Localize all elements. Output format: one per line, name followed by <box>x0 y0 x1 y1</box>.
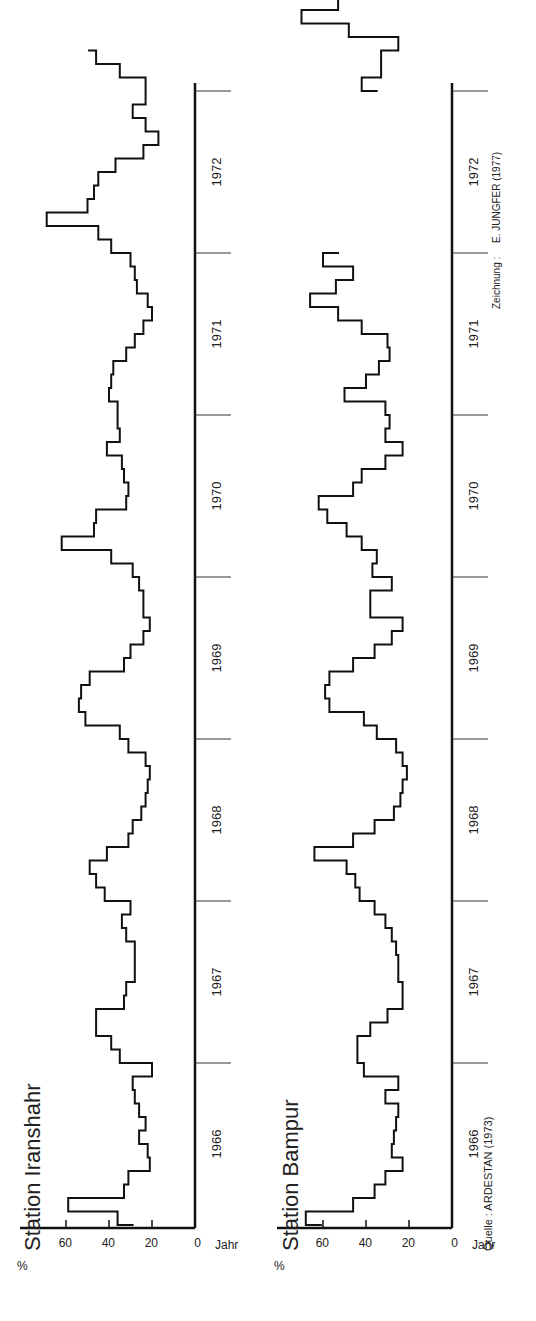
year-label: 1968 <box>466 806 481 835</box>
year-label: 1970 <box>466 482 481 511</box>
y-tick-label: 40 <box>102 1236 116 1250</box>
y-tick-label: 20 <box>402 1236 416 1250</box>
y-tick-label: 40 <box>359 1236 373 1250</box>
y-tick-label: 60 <box>59 1236 73 1250</box>
year-label: 1969 <box>466 644 481 673</box>
year-label: 1968 <box>209 806 224 835</box>
y-axis-unit: % <box>274 1259 285 1273</box>
year-label: 1967 <box>466 968 481 997</box>
y-tick-label: 0 <box>451 1236 458 1250</box>
chart-stage: 0204060%Jahr1966196719681969197019711972… <box>0 0 536 1321</box>
y-tick-label: 0 <box>194 1236 201 1250</box>
iranshahr-title: Station Iranshahr <box>20 1083 45 1251</box>
bampur-title: Station Bampur <box>278 1099 303 1251</box>
year-label: 1966 <box>466 1130 481 1159</box>
year-label: 1971 <box>466 320 481 349</box>
chart-bampur: 0204060%Jahr1966196719681969197019711972 <box>274 0 495 1273</box>
year-label: 1970 <box>209 482 224 511</box>
year-label: 1972 <box>209 158 224 187</box>
year-label: 1969 <box>209 644 224 673</box>
year-label: 1966 <box>209 1130 224 1159</box>
data-step-line <box>47 51 159 1226</box>
year-label: 1971 <box>209 320 224 349</box>
source-credit: Quelle : ARDESTAN (1973) <box>482 1117 494 1251</box>
drawing-author: E. JUNGFER (1977) <box>491 152 502 243</box>
chart-canvas: 0204060%Jahr1966196719681969197019711972… <box>0 0 536 1321</box>
y-tick-label: 20 <box>145 1236 159 1250</box>
year-label: 1967 <box>209 968 224 997</box>
y-tick-label: 60 <box>316 1236 330 1250</box>
x-axis-label: Jahr <box>215 1238 238 1252</box>
y-axis-unit: % <box>17 1259 28 1273</box>
data-step-line <box>302 0 408 1225</box>
drawing-label: Zeichnung : <box>491 257 502 309</box>
year-label: 1972 <box>466 158 481 187</box>
chart-iranshahr: 0204060%Jahr1966196719681969197019711972 <box>17 51 238 1274</box>
